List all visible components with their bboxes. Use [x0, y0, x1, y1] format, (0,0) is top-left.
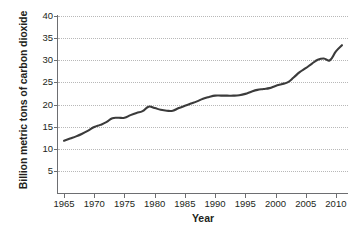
x-axis-title: Year	[58, 212, 348, 224]
y-tick-label: 40	[31, 11, 53, 21]
y-tick-label: 15	[31, 122, 53, 132]
y-tick-label: 10	[31, 144, 53, 154]
plot-area: 510152025303540	[58, 16, 348, 193]
co2-emissions-line-chart: Billion metric tons of carbon dioxide 51…	[0, 0, 350, 245]
y-tick-label: 25	[31, 77, 53, 87]
y-axis-title: Billion metric tons of carbon dioxide	[17, 4, 29, 196]
y-tick-label: 30	[31, 55, 53, 65]
co2-series-line	[64, 45, 342, 141]
x-axis-line	[57, 193, 348, 194]
y-tick-label: 5	[31, 166, 53, 176]
series-layer	[58, 16, 348, 193]
x-tick-label: 2010	[316, 199, 350, 209]
y-tick-label: 35	[31, 33, 53, 43]
y-tick-label: 20	[31, 100, 53, 110]
